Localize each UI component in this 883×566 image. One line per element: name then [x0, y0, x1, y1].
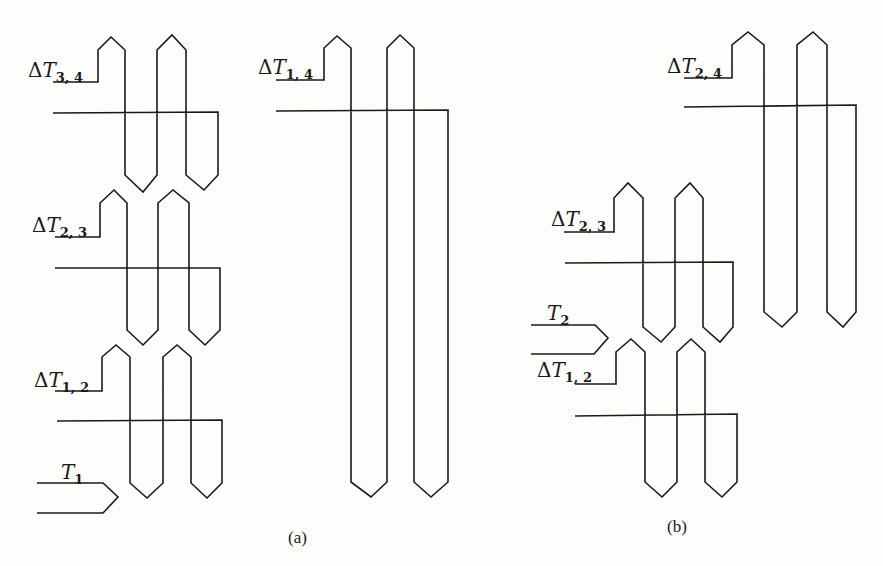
delta-symbol: Δ	[551, 207, 565, 231]
subscript: 1, 4	[286, 67, 313, 82]
inlet-arrow-t1	[37, 483, 118, 513]
variable-t: T	[565, 207, 578, 231]
subscript: 2	[560, 313, 569, 328]
label-a-dt23: ΔT2, 3	[32, 215, 87, 239]
delta-symbol: Δ	[537, 358, 551, 382]
subscript: 2, 3	[60, 225, 87, 240]
variable-t: T	[61, 460, 74, 484]
subscript: 2, 4	[695, 66, 722, 81]
label-b-dt23: ΔT2, 3	[551, 209, 606, 233]
subscript: 3, 4	[56, 70, 83, 85]
variable-t: T	[681, 54, 694, 78]
label-a-dt12: ΔT1, 2	[34, 370, 89, 394]
variable-t: T	[46, 213, 59, 237]
inlet-arrow-t2	[531, 325, 608, 354]
exchanger-b-dt12-outline	[575, 339, 737, 497]
variable-t: T	[48, 368, 61, 392]
delta-symbol: Δ	[667, 54, 681, 78]
exchanger-a-dt14-outline	[276, 35, 448, 497]
subscript: 1, 2	[62, 380, 89, 395]
subscript: 2, 3	[579, 219, 606, 234]
caption-b: (b)	[667, 517, 687, 537]
label-a-dt14: ΔT1, 4	[258, 57, 313, 81]
label-b-dt24: ΔT2, 4	[667, 56, 722, 80]
exchanger-b-dt23-outline	[564, 183, 733, 342]
exchanger-a-dt23-outline	[55, 190, 220, 345]
label-b-t2: T2	[547, 303, 569, 327]
subscript: 1, 2	[565, 370, 592, 385]
variable-t: T	[547, 301, 560, 325]
label-b-dt12: ΔT1, 2	[537, 360, 592, 384]
delta-symbol: Δ	[28, 58, 42, 82]
variable-t: T	[42, 58, 55, 82]
label-a-dt34: ΔT3, 4	[28, 60, 83, 84]
label-a-t1: T1	[61, 462, 83, 486]
exchanger-line-drawing	[0, 0, 883, 566]
exchanger-a-dt34-outline	[53, 35, 218, 192]
delta-symbol: Δ	[32, 213, 46, 237]
variable-t: T	[551, 358, 564, 382]
subscript: 1	[74, 472, 83, 487]
delta-symbol: Δ	[258, 55, 272, 79]
delta-symbol: Δ	[34, 368, 48, 392]
caption-a: (a)	[288, 528, 307, 548]
figure-canvas: ΔT3, 4 ΔT2, 3 ΔT1, 2 T1 ΔT1, 4 (a) ΔT2, …	[0, 0, 883, 566]
variable-t: T	[272, 55, 285, 79]
